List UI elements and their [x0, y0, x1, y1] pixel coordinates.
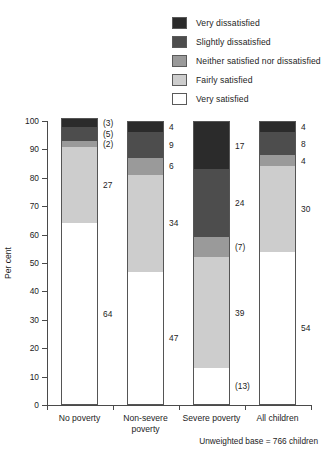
y-tick: [42, 263, 47, 264]
bar-segment-very-satisfied: 64: [61, 223, 98, 405]
x-tick: [311, 405, 312, 410]
bar-segment-label: (2): [103, 139, 113, 149]
x-tick: [245, 405, 246, 410]
y-tick: [42, 149, 47, 150]
bar-segment-label: 4: [169, 122, 174, 132]
y-tick-label: 70: [30, 201, 39, 211]
x-tick: [113, 405, 114, 410]
bar-segment-fairly-satisfied: 39: [193, 257, 230, 368]
bar-segment-label: 54: [301, 323, 310, 333]
bar-segment-label: 6: [169, 161, 174, 171]
bar-segment-neither: 6: [127, 158, 164, 175]
bar-segment-slightly-dissatisfied: (5): [61, 127, 98, 141]
legend-swatch-icon: [172, 36, 187, 48]
bar-segment-label: (5): [103, 129, 113, 139]
y-tick-label: 100: [25, 116, 39, 126]
bar-segment-fairly-satisfied: 30: [259, 166, 296, 251]
bar-segment-very-satisfied: 47: [127, 272, 164, 405]
bar-segment-label: (3): [103, 118, 113, 128]
legend-item-very-dissatisfied: Very dissatisfied: [172, 13, 321, 32]
legend-item-neither: Neither satisfied nor dissatisfied: [172, 51, 321, 70]
legend-item-label: Neither satisfied nor dissatisfied: [196, 56, 321, 66]
legend-swatch-icon: [172, 93, 187, 105]
x-category-label-all-children: All children: [241, 413, 315, 424]
legend-swatch-icon: [172, 74, 187, 86]
bar-segment-slightly-dissatisfied: 8: [259, 132, 296, 155]
y-tick: [42, 320, 47, 321]
y-tick: [42, 178, 47, 179]
y-tick: [42, 121, 47, 122]
bar-segment-very-dissatisfied: 4: [259, 121, 296, 132]
bar-segment-label: 34: [169, 218, 178, 228]
bar-non-severe-poverty: 47 34 6 9 4: [127, 121, 164, 405]
bar-severe-poverty: (13) 39 (7) 24 17: [193, 121, 230, 405]
y-tick-label: 0: [34, 400, 39, 410]
y-tick-label: 30: [30, 315, 39, 325]
bar-segment-very-satisfied: (13): [193, 368, 230, 405]
bar-segment-label: 17: [235, 141, 244, 151]
plot-area: Per cent 0 10 20 30 40 50 60 70 80 90 10…: [47, 121, 312, 405]
bar-segment-very-dissatisfied: 17: [193, 121, 230, 169]
y-tick: [42, 377, 47, 378]
bar-segment-fairly-satisfied: 34: [127, 175, 164, 272]
legend-item-label: Fairly satisfied: [196, 75, 253, 85]
bar-segment-label: 47: [169, 333, 178, 343]
legend-item-label: Very satisfied: [196, 94, 249, 104]
y-axis-title: Per cent: [3, 247, 13, 279]
bar-segment-label: 64: [103, 309, 112, 319]
bar-segment-slightly-dissatisfied: 24: [193, 169, 230, 237]
bar-segment-very-satisfied: 54: [259, 252, 296, 405]
bar-segment-slightly-dissatisfied: 9: [127, 132, 164, 158]
y-tick-label: 20: [30, 343, 39, 353]
legend-item-very-satisfied: Very satisfied: [172, 89, 321, 108]
bar-segment-label: 39: [235, 308, 244, 318]
bar-segment-label: (13): [235, 381, 250, 391]
y-tick: [42, 235, 47, 236]
legend-item-slightly-dissatisfied: Slightly dissatisfied: [172, 32, 321, 51]
bar-segment-fairly-satisfied: 27: [61, 147, 98, 224]
bar-segment-neither: 4: [259, 155, 296, 166]
bar-segment-very-dissatisfied: 4: [127, 121, 164, 132]
stacked-bar-chart-figure: Very dissatisfied Slightly dissatisfied …: [0, 0, 330, 460]
bar-segment-label: 27: [103, 180, 112, 190]
bar-segment-label: (7): [235, 242, 245, 252]
y-tick-label: 80: [30, 173, 39, 183]
bar-segment-label: 4: [301, 156, 306, 166]
y-tick: [42, 206, 47, 207]
bar-segment-label: 8: [301, 139, 306, 149]
bar-no-poverty: 64 27 (2) (5) (3): [61, 118, 98, 405]
y-axis-line: [47, 121, 48, 405]
x-category-label-no-poverty: No poverty: [43, 413, 117, 424]
bar-segment-label: 4: [301, 122, 306, 132]
y-tick-label: 50: [30, 258, 39, 268]
bar-all-children: 54 30 4 8 4: [259, 121, 296, 405]
chart-legend: Very dissatisfied Slightly dissatisfied …: [172, 13, 321, 108]
y-tick-label: 10: [30, 372, 39, 382]
x-category-label-non-severe-poverty: Non-severe poverty: [109, 413, 183, 435]
bar-segment-neither: (2): [61, 141, 98, 147]
bar-segment-neither: (7): [193, 237, 230, 257]
y-tick: [42, 348, 47, 349]
x-category-label-severe-poverty: Severe poverty: [175, 413, 249, 424]
x-tick: [179, 405, 180, 410]
legend-item-label: Slightly dissatisfied: [196, 37, 271, 47]
y-tick-label: 90: [30, 144, 39, 154]
chart-footnote: Unweighted base = 766 children: [199, 436, 318, 446]
bar-segment-label: 30: [301, 204, 310, 214]
legend-item-fairly-satisfied: Fairly satisfied: [172, 70, 321, 89]
bar-segment-label: 24: [235, 198, 244, 208]
x-tick: [47, 405, 48, 410]
legend-swatch-icon: [172, 17, 187, 29]
y-tick-label: 40: [30, 286, 39, 296]
bar-segment-label: 9: [169, 140, 174, 150]
bar-segment-very-dissatisfied: (3): [61, 118, 98, 127]
legend-swatch-icon: [172, 55, 187, 67]
y-tick-label: 60: [30, 230, 39, 240]
legend-item-label: Very dissatisfied: [196, 18, 260, 28]
y-tick: [42, 291, 47, 292]
